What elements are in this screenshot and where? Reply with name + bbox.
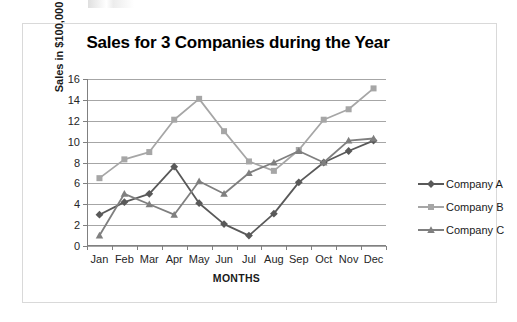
x-tick-label: Nov	[339, 253, 359, 265]
legend-item-company-c[interactable]: Company C	[418, 218, 504, 241]
x-tick-mark	[386, 246, 387, 250]
data-point	[171, 117, 177, 123]
legend-label: Company B	[446, 201, 503, 213]
x-tick-label: Dec	[364, 253, 384, 265]
chart-title: Sales for 3 Companies during the Year	[23, 33, 453, 53]
x-tick-mark	[87, 246, 88, 250]
x-tick-mark	[311, 246, 312, 250]
y-tick-label: 12	[68, 115, 80, 127]
y-tick-label: 8	[74, 157, 80, 169]
x-tick-label: Mar	[140, 253, 159, 265]
series-company-c	[96, 135, 378, 239]
legend-diamond-icon	[418, 178, 444, 190]
legend-square-icon	[418, 201, 444, 213]
x-tick-label: Aug	[264, 253, 284, 265]
x-tick-mark	[336, 246, 337, 250]
y-tick-label: 0	[74, 240, 80, 252]
x-tick-label: Apr	[166, 253, 183, 265]
legend-label: Company C	[446, 224, 504, 236]
chart-legend: Company ACompany BCompany C	[418, 172, 504, 241]
legend-item-company-b[interactable]: Company B	[418, 195, 504, 218]
x-tick-mark	[212, 246, 213, 250]
data-point	[96, 211, 104, 219]
x-tick-label: May	[189, 253, 210, 265]
x-tick-mark	[112, 246, 113, 250]
chart-container: Sales for 3 Companies during the Year Sa…	[22, 23, 497, 303]
x-tick-mark	[286, 246, 287, 250]
y-axis-title: Sales in $100,000	[53, 0, 65, 117]
x-tick-label: Feb	[115, 253, 134, 265]
data-point	[246, 158, 252, 164]
x-tick-mark	[162, 246, 163, 250]
y-tick-label: 14	[68, 94, 80, 106]
legend-item-company-a[interactable]: Company A	[418, 172, 504, 195]
x-tick-mark	[361, 246, 362, 250]
series-line	[99, 88, 373, 178]
data-point	[146, 149, 152, 155]
y-tick-label: 2	[74, 219, 80, 231]
data-point	[345, 147, 353, 155]
data-point	[221, 128, 227, 134]
data-point	[346, 106, 352, 112]
series-line	[99, 138, 373, 235]
data-point	[371, 85, 377, 91]
data-point	[271, 168, 277, 174]
x-tick-label: Jan	[91, 253, 109, 265]
top-edge-artifact	[88, 0, 134, 8]
y-tick-label: 16	[68, 73, 80, 85]
legend-triangle-icon	[418, 224, 444, 236]
x-tick-mark	[237, 246, 238, 250]
legend-label: Company A	[446, 178, 503, 190]
x-tick-label: Jul	[242, 253, 256, 265]
x-tick-mark	[137, 246, 138, 250]
x-axis-title: MONTHS	[87, 272, 386, 284]
y-tick-label: 10	[68, 136, 80, 148]
data-point	[121, 156, 127, 162]
y-tick-label: 4	[74, 198, 80, 210]
data-series-layer	[87, 79, 386, 246]
x-tick-mark	[261, 246, 262, 250]
x-tick-label: Oct	[315, 253, 332, 265]
x-tick-label: Jun	[215, 253, 233, 265]
x-tick-label: Sep	[289, 253, 309, 265]
x-tick-mark	[187, 246, 188, 250]
plot-area: 0246810121416 JanFebMarAprMayJunJulAugSe…	[87, 79, 386, 246]
y-tick-label: 6	[74, 177, 80, 189]
data-point	[121, 190, 129, 197]
data-point	[196, 96, 202, 102]
series-company-b	[96, 85, 376, 181]
data-point	[96, 175, 102, 181]
data-point	[195, 178, 203, 185]
data-point	[321, 117, 327, 123]
